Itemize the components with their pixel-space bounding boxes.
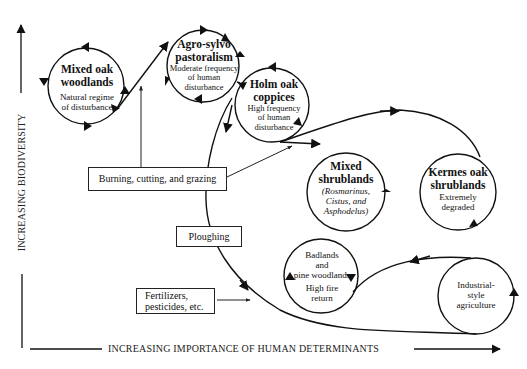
node-agro-sylvo-pastoralism: Agro-sylvo pastoralism Moderate frequenc… [164, 38, 244, 92]
node-subtitle: degraded [420, 202, 496, 212]
node-holm-oak-coppices: Holm oak coppices High frequency of huma… [236, 78, 312, 132]
node-title: coppices [236, 91, 312, 104]
node-subtitle: Cistus, and [310, 196, 382, 206]
node-subtitle: disturbance [236, 123, 312, 133]
node-subtitle: pine woodlands [286, 270, 358, 280]
node-mixed-shrublands: Mixed shrublands (Rosmarinus, Cistus, an… [310, 160, 382, 216]
node-subtitle: (Rosmarinus, [310, 186, 382, 196]
node-subtitle: agriculture [442, 300, 510, 310]
node-subtitle: of disturbance [52, 102, 122, 112]
node-subtitle: Industrial- [442, 280, 510, 290]
node-title: woodlands [52, 76, 122, 89]
node-subtitle: disturbance [164, 83, 244, 93]
node-title: Agro-sylvo [164, 38, 244, 51]
node-badlands-pine-woodlands: Badlands and pine woodlands High fire re… [286, 250, 358, 303]
node-subtitle: Asphodelus) [310, 206, 382, 216]
node-subtitle: style [442, 290, 510, 300]
node-subtitle: High fire [286, 283, 358, 293]
node-subtitle: Natural regime [52, 92, 122, 102]
node-title: shrublands [310, 173, 382, 186]
driver-label: Fertilizers, [145, 290, 188, 302]
node-industrial-agriculture: Industrial- style agriculture [442, 280, 510, 310]
node-title: shrublands [420, 179, 496, 192]
node-title: Holm oak [236, 78, 312, 91]
driver-box-ploughing: Ploughing [176, 226, 242, 247]
driver-box-fertilizers-pesticides: Fertilizers, pesticides, etc. [136, 288, 215, 314]
node-title: Kermes oak [420, 166, 496, 179]
node-subtitle: return [286, 293, 358, 303]
node-subtitle: Badlands [286, 250, 358, 260]
driver-label: Burning, cutting, and grazing [99, 173, 216, 185]
x-axis-label: INCREASING IMPORTANCE OF HUMAN DETERMINA… [108, 343, 379, 354]
node-subtitle: Extremely [420, 192, 496, 202]
driver-label: pesticides, etc. [145, 301, 204, 313]
node-title: pastoralism [164, 51, 244, 64]
node-mixed-oak-woodlands: Mixed oak woodlands Natural regime of di… [52, 63, 122, 112]
node-subtitle: and [286, 260, 358, 270]
y-axis-label: INCREASING BIODIVERSITY [16, 108, 27, 258]
node-title: Mixed oak [52, 63, 122, 76]
node-title: Mixed [310, 160, 382, 173]
driver-box-burning-cutting-grazing: Burning, cutting, and grazing [88, 167, 227, 191]
node-kermes-oak-shrublands: Kermes oak shrublands Extremely degraded [420, 166, 496, 212]
driver-label: Ploughing [188, 231, 229, 243]
